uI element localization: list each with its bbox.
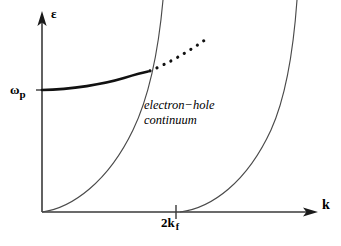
continuum-annotation-line1: electron−hole xyxy=(144,98,214,112)
continuum-annotation-line2: continuum xyxy=(144,113,214,128)
omega-subscript-p: p xyxy=(20,88,26,100)
plasmon-dispersion-figure: ε k ωp 2kf electron−hole continuum xyxy=(0,0,341,246)
x-tick-label-2kf: 2kf xyxy=(161,216,179,232)
k-subscript-f: f xyxy=(175,221,179,232)
plasmon-branch-dotted xyxy=(150,39,207,71)
x-axis-label: k xyxy=(322,198,330,212)
y-axis-label: ε xyxy=(51,7,57,20)
omega-symbol: ω xyxy=(10,82,20,97)
two-k-symbol: 2k xyxy=(161,215,175,230)
continuum-annotation: electron−hole continuum xyxy=(144,98,214,128)
y-tick-label-omega-p: ωp xyxy=(10,83,26,100)
plasmon-branch-solid xyxy=(42,72,148,91)
